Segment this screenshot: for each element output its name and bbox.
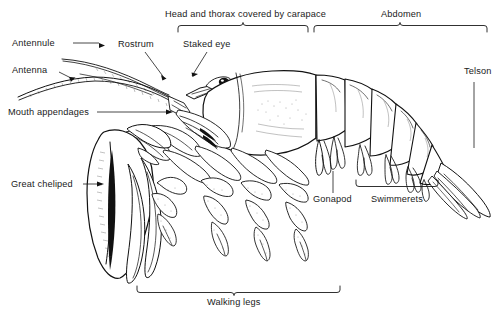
antenna-label: Antenna: [12, 65, 48, 75]
walking-leg-1: [152, 150, 211, 246]
abdomen-bracket: [314, 23, 487, 33]
diagram-canvas: Antennule Antenna Mouth appendages Great…: [0, 0, 498, 314]
telson-tail-fan: [428, 163, 490, 219]
rostrum-label: Rostrum: [118, 39, 154, 49]
rostrum-arrowhead: [161, 75, 167, 80]
rostrum-leader: [145, 52, 165, 79]
walking-legs-label: Walking legs: [207, 297, 261, 307]
staked-eye-arrowhead: [192, 73, 199, 78]
anatomy-diagram-figure: Antennule Antenna Mouth appendages Great…: [0, 0, 498, 314]
abdomen-label: Abdomen: [381, 9, 421, 19]
label-antenna: Antenna: [12, 65, 76, 82]
staked-eye-leader: [192, 52, 207, 76]
great-cheliped-label: Great cheliped: [11, 179, 73, 189]
label-gonapod: Gonapod: [313, 171, 352, 204]
gonapod-label: Gonapod: [313, 194, 352, 204]
label-mouth-appendages: Mouth appendages: [8, 107, 173, 117]
label-antennule: Antennule: [12, 38, 105, 48]
label-telson: Telson: [464, 66, 491, 148]
gonapod-shape: [316, 140, 331, 175]
bracket-head-thorax: Head and thorax covered by carapace: [165, 9, 326, 32]
walking-leg-4: [265, 150, 309, 261]
crayfish-illustration: [18, 59, 490, 283]
staked-eye-label: Staked eye: [183, 39, 230, 49]
head-thorax-label: Head and thorax covered by carapace: [165, 9, 326, 19]
telson-label: Telson: [464, 66, 491, 76]
bracket-abdomen: Abdomen: [314, 9, 487, 32]
walking-leg-2: [195, 146, 241, 256]
mouth-appendages-label: Mouth appendages: [8, 107, 89, 117]
walking-leg-3: [231, 148, 277, 261]
label-rostrum: Rostrum: [118, 39, 167, 80]
walking-legs-shapes: [152, 146, 309, 261]
swimmerets-label: Swimmerets: [371, 194, 423, 204]
antennule-label: Antennule: [12, 38, 55, 48]
label-staked-eye: Staked eye: [183, 39, 230, 77]
walking-legs-bracket: [137, 286, 340, 296]
bracket-walking-legs: Walking legs: [137, 286, 340, 307]
head-thorax-bracket: [178, 23, 308, 33]
